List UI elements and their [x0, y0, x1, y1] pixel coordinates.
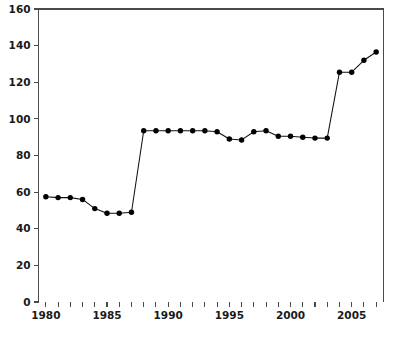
data-point: [92, 206, 97, 211]
axis-frame: [39, 9, 384, 302]
data-point: [104, 210, 109, 215]
data-point: [325, 135, 330, 140]
data-point: [276, 134, 281, 139]
data-point: [288, 134, 293, 139]
y-tick-label: 140: [9, 39, 31, 51]
data-point: [153, 128, 158, 133]
data-point: [239, 137, 244, 142]
data-point: [55, 195, 60, 200]
data-point: [263, 128, 268, 133]
y-tick-label: 160: [9, 3, 31, 15]
y-tick-label: 100: [9, 113, 31, 125]
data-point: [178, 128, 183, 133]
data-point: [337, 69, 342, 74]
y-tick-label: 60: [16, 186, 31, 198]
data-point: [227, 136, 232, 141]
data-series-line: [46, 52, 376, 213]
data-point: [129, 210, 134, 215]
y-axis-ticks: 020406080100120140160: [9, 3, 39, 308]
data-point: [165, 128, 170, 133]
x-tick-label: 2000: [276, 309, 305, 321]
y-tick-label: 40: [16, 222, 31, 234]
data-point: [251, 129, 256, 134]
line-chart: 020406080100120140160 198019851990199520…: [0, 0, 402, 340]
data-point: [117, 210, 122, 215]
data-point: [43, 194, 48, 199]
data-point: [214, 129, 219, 134]
data-point: [300, 134, 305, 139]
y-tick-label: 80: [16, 149, 31, 161]
data-point: [361, 58, 366, 63]
x-tick-label: 1980: [31, 309, 60, 321]
data-point: [190, 128, 195, 133]
data-point: [68, 195, 73, 200]
x-tick-label: 1985: [92, 309, 121, 321]
y-tick-label: 0: [23, 296, 30, 308]
data-point: [202, 128, 207, 133]
chart-canvas: 020406080100120140160 198019851990199520…: [0, 0, 402, 340]
x-tick-label: 1990: [154, 309, 183, 321]
x-tick-label: 2005: [337, 309, 366, 321]
data-point: [349, 69, 354, 74]
data-point: [80, 197, 85, 202]
x-axis-ticks: 198019851990199520002005: [31, 302, 376, 321]
data-point: [312, 135, 317, 140]
x-tick-label: 1995: [215, 309, 244, 321]
data-point: [141, 128, 146, 133]
y-tick-label: 20: [16, 259, 31, 271]
data-point: [373, 49, 378, 54]
y-tick-label: 120: [9, 76, 31, 88]
